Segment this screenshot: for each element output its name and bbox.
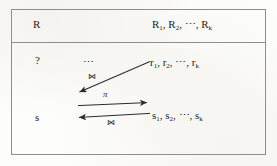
- header-item-3-base: R: [201, 18, 208, 30]
- body-tuple-r-list: r1, r2, ⋯, rk: [150, 57, 199, 68]
- tuple-s-item-3-subscript: k: [199, 115, 203, 123]
- header-subrelation-list: R1, R2, ⋯, Rk: [152, 19, 212, 30]
- header-item-2-subscript: 2: [176, 24, 180, 32]
- header-item-3-subscript: k: [209, 24, 213, 32]
- projection-operator-label: π: [103, 90, 108, 99]
- tuple-s-ellipsis: ⋯: [179, 109, 190, 121]
- header-ellipsis: ⋯: [185, 18, 196, 30]
- tuple-s-item-2-base: s: [165, 109, 169, 121]
- body-tuple-s-list: s1, s2, ⋯, sk: [152, 110, 203, 121]
- body-middle-ellipsis: ⋯: [83, 57, 95, 68]
- tuple-s-item-1-subscript: 1: [156, 115, 160, 123]
- header-item-2-base: R: [168, 18, 175, 30]
- tuple-r-item-3-subscript: k: [196, 62, 200, 70]
- tuple-s-item-2-subscript: 2: [170, 115, 174, 123]
- tuple-r-item-1-subscript: 1: [154, 62, 158, 70]
- tuple-r-ellipsis: ⋯: [175, 56, 186, 68]
- figure-container: R R1, R2, ⋯, Rk ? ⋯ r1, r2, ⋯, rk s s1, …: [0, 0, 277, 166]
- join-operator-lower-label: ⋈: [107, 119, 115, 127]
- tuple-r-item-3-base: r: [192, 56, 196, 68]
- header-item-1-subscript: 1: [159, 24, 163, 32]
- header-divider: [11, 42, 266, 43]
- table-frame: [11, 9, 266, 155]
- header-relation-label: R: [33, 19, 40, 30]
- tuple-r-item-2-subscript: 2: [166, 62, 170, 70]
- body-unknown-tuple-label: ?: [35, 55, 40, 66]
- join-operator-upper-label: ⋈: [88, 73, 96, 81]
- body-result-tuple-label: s: [35, 112, 39, 123]
